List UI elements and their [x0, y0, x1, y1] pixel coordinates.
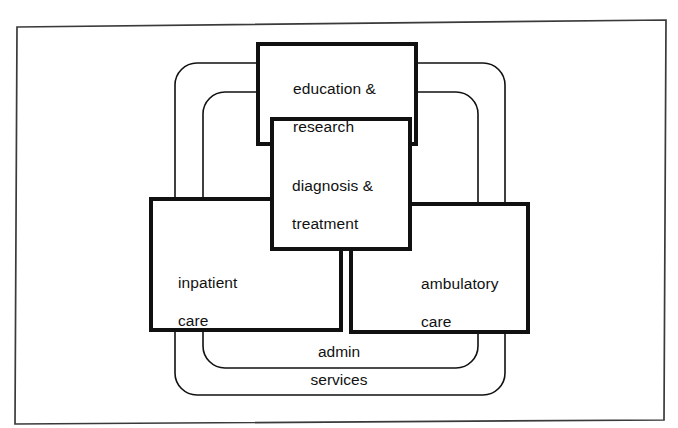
education-research-region[interactable] — [258, 44, 416, 119]
diagnosis-treatment-region[interactable] — [272, 119, 410, 249]
services-envelope-label: services — [289, 371, 389, 390]
diagram-page: education & research diagnosis & treatme… — [0, 0, 678, 428]
ambulatory-care-region[interactable] — [410, 249, 528, 332]
admin-envelope-label: admin — [289, 343, 389, 362]
inpatient-care-region[interactable] — [151, 249, 272, 330]
